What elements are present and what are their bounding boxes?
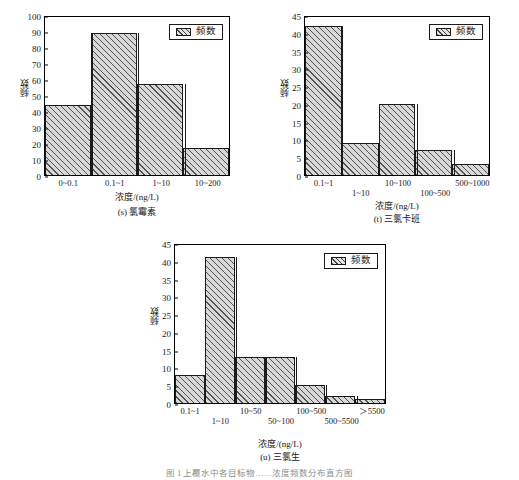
x-tick-label: ＞5500: [359, 407, 385, 416]
bar-series-u: [175, 245, 385, 403]
y-tick-label: 10: [32, 157, 45, 166]
y-tick-label: 40: [292, 30, 305, 39]
bar-separator: [296, 357, 297, 403]
x-axis-title-s: 浓度/(ng/L): [44, 190, 230, 203]
y-tick-label: 20: [32, 141, 45, 150]
legend-label-u: 频数: [351, 256, 371, 266]
y-tick-label: 25: [292, 84, 305, 93]
figure-histogram-panels: 0102030405060708090100 0~0.10.1~11~1010~…: [0, 0, 519, 480]
bar: [175, 375, 205, 403]
y-tick-label: 45: [162, 241, 175, 250]
x-tick-label: 1~10: [352, 189, 369, 198]
bar-series-t: [305, 17, 489, 175]
y-tick-label: 0: [167, 401, 176, 410]
y-tick-label: 30: [162, 294, 175, 303]
y-tick-label: 5: [167, 383, 176, 392]
x-tick-label: 0.1~1: [105, 179, 124, 188]
bar: [137, 84, 183, 175]
legend-s: 频数: [169, 24, 223, 40]
bar-separator: [205, 257, 206, 403]
bar-separator: [326, 385, 327, 403]
y-tick-label: 20: [162, 329, 175, 338]
legend-hatch-swatch-icon: [176, 28, 191, 36]
bar: [325, 396, 355, 403]
x-tick-label: 10~100: [385, 179, 411, 188]
bar: [452, 164, 489, 175]
y-tick-label: 15: [292, 119, 305, 128]
x-tick-label: 10~50: [240, 407, 262, 416]
bar: [91, 33, 137, 175]
chart-panel-s: 0102030405060708090100 0~0.10.1~11~1010~…: [0, 0, 255, 220]
bar-separator: [92, 33, 93, 175]
y-tick-label: 35: [162, 276, 175, 285]
bar-separator: [417, 104, 418, 175]
y-tick-label: 70: [32, 61, 45, 70]
x-tick-label: 1~10: [153, 179, 170, 188]
bar: [355, 399, 385, 403]
x-tick-label: 500~5500: [324, 417, 358, 426]
bar-separator: [342, 26, 343, 175]
y-tick-label: 80: [32, 45, 45, 54]
y-tick-label: 100: [28, 13, 46, 22]
x-tick-label: 50~100: [268, 417, 294, 426]
x-tick-label: 500~1000: [455, 179, 489, 188]
y-axis-title-u: 频数: [147, 306, 160, 325]
bar: [295, 385, 325, 403]
legend-u: 频数: [324, 253, 378, 269]
x-tick-label: 0.1~1: [180, 407, 199, 416]
bar-separator: [236, 257, 237, 403]
y-tick-label: 45: [292, 13, 305, 22]
y-tick-label: 40: [32, 109, 45, 118]
bar-separator: [138, 33, 139, 175]
legend-label-s: 频数: [196, 27, 216, 37]
y-tick-label: 30: [292, 66, 305, 75]
bar: [379, 104, 416, 175]
panel-caption-s: (s) 氯霉素: [44, 205, 230, 218]
x-tick-label: 0~0.1: [59, 179, 78, 188]
bar-separator: [185, 84, 186, 175]
plot-area-u: 051015202530354045 0.1~11~1010~5050~1001…: [174, 244, 386, 404]
bar-separator: [266, 357, 267, 403]
bar-separator: [357, 396, 358, 403]
x-tick-label: 10~200: [195, 179, 221, 188]
y-tick-label: 25: [162, 312, 175, 321]
y-tick-label: 35: [292, 48, 305, 57]
bar: [205, 257, 235, 403]
bar: [342, 143, 379, 175]
y-tick-label: 30: [32, 125, 45, 134]
bar: [305, 26, 342, 175]
x-tick-label: 100~500: [420, 189, 450, 198]
y-axis-title-s: 频数: [17, 78, 30, 97]
x-axis-title-t: 浓度/(ng/L): [304, 199, 490, 212]
y-tick-label: 90: [32, 29, 45, 38]
x-tick-label: 0.1~1: [314, 179, 333, 188]
legend-t: 频数: [429, 24, 483, 40]
panel-caption-t: (t) 三氯卡班: [304, 212, 490, 225]
y-tick-label: 0: [297, 173, 306, 182]
bar: [265, 357, 295, 403]
y-axis-title-t: 频数: [277, 78, 290, 97]
y-tick-label: 40: [162, 258, 175, 267]
bar: [415, 150, 452, 175]
x-axis-title-u: 浓度/(ng/L): [174, 437, 386, 450]
bar-separator: [379, 104, 380, 175]
y-tick-label: 20: [292, 101, 305, 110]
y-tick-label: 5: [297, 155, 306, 164]
y-tick-label: 50: [32, 93, 45, 102]
legend-label-t: 频数: [456, 27, 476, 37]
y-tick-label: 10: [162, 365, 175, 374]
legend-hatch-swatch-icon: [331, 257, 346, 265]
chart-panel-t: 051015202530354045 0.1~11~1010~100100~50…: [258, 0, 519, 220]
bar: [45, 105, 91, 175]
bar: [183, 148, 229, 175]
y-tick-label: 15: [162, 347, 175, 356]
plot-area-t: 051015202530354045 0.1~11~1010~100100~50…: [304, 16, 490, 176]
chart-panel-u: 051015202530354045 0.1~11~1010~5050~1001…: [128, 232, 408, 480]
y-tick-label: 10: [292, 137, 305, 146]
bar-separator: [454, 150, 455, 175]
plot-area-s: 0102030405060708090100 0~0.10.1~11~1010~…: [44, 16, 230, 176]
x-tick-label: 100~500: [296, 407, 326, 416]
x-tick-label: 1~10: [212, 417, 229, 426]
bar: [235, 357, 265, 403]
legend-hatch-swatch-icon: [436, 28, 451, 36]
